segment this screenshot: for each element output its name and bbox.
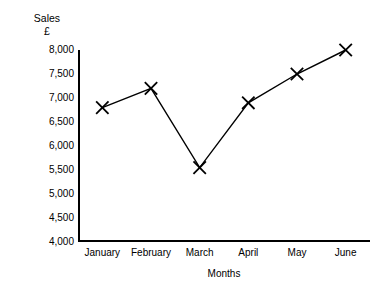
y-axis-title: Sales £ [16,12,78,38]
x-axis-tick-label: January [85,248,121,258]
y-axis-tick-label: 5,000 [30,189,74,199]
y-axis-title-line-2: £ [16,25,78,38]
y-axis-tick-label: 7,500 [30,69,74,79]
line-chart: Sales £ 8,0007,5007,0006,5006,0005,5005,… [0,0,381,301]
y-axis-tick-labels: 8,0007,5007,0006,5006,0005,5005,0004,500… [28,50,74,242]
x-axis-tick-labels: JanuaryFebruaryMarchAprilMayJune [78,248,370,264]
plot-area [78,50,370,242]
x-axis-tick-label: May [288,248,307,258]
y-axis-tick-label: 4,000 [30,237,74,247]
y-axis-tick-label: 6,500 [30,117,74,127]
y-axis-tick-label: 6,000 [30,141,74,151]
y-axis-tick-label: 7,000 [30,93,74,103]
x-axis-tick-label: March [186,248,214,258]
x-axis-tick-label: June [335,248,357,258]
y-axis-tick-label: 4,500 [30,213,74,223]
x-axis-title: Months [78,268,370,279]
y-axis-tick-label: 8,000 [30,45,74,55]
x-axis-tick-label: February [131,248,171,258]
x-axis-tick-label: April [238,248,258,258]
y-axis-tick-label: 5,500 [30,165,74,175]
y-axis-title-line-1: Sales [16,12,78,25]
